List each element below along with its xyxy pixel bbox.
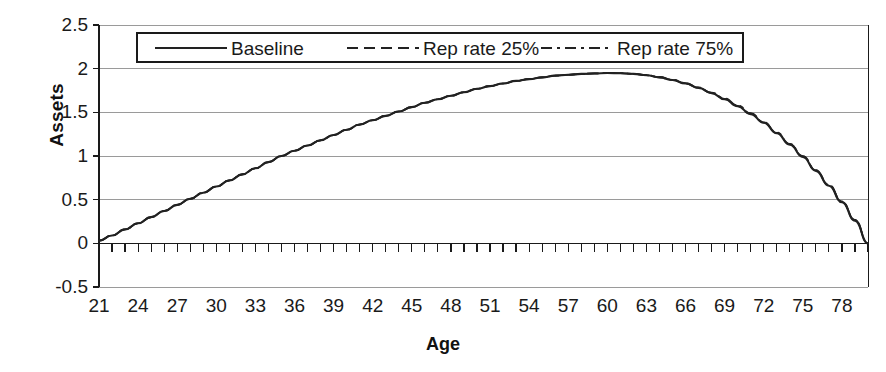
series-line — [99, 73, 868, 243]
x-axis-title: Age — [0, 334, 886, 355]
legend-label: Rep rate 75% — [617, 38, 733, 59]
legend-label: Baseline — [231, 38, 304, 59]
assets-by-age-line-chart: Assets 2.521.510.50-0.5 2124273033363942… — [0, 0, 886, 372]
series-line — [99, 73, 868, 243]
series-line — [99, 73, 868, 243]
plot-area: BaselineRep rate 25%Rep rate 75% — [0, 0, 886, 372]
legend-label: Rep rate 25% — [423, 38, 539, 59]
